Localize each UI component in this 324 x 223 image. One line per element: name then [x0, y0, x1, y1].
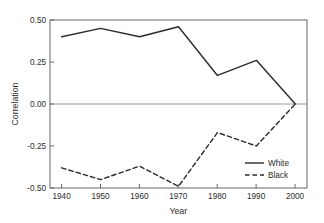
chart-legend: White Black — [240, 155, 306, 181]
y-tick-label-2: 0.00 — [30, 100, 46, 109]
x-tick-label-2000: 2000 — [286, 192, 305, 201]
y-tick-label-3: -0.25 — [27, 142, 46, 151]
x-tick-label-1940: 1940 — [52, 192, 71, 201]
correlation-line-chart: 0.50 0.25 0.00 -0.25 -0.50 1940 1950 196… — [0, 0, 324, 223]
x-tick-label-1970: 1970 — [169, 192, 188, 201]
x-axis-title: Year — [169, 206, 187, 216]
y-tick-label-4: -0.50 — [27, 184, 46, 193]
x-tick-label-1960: 1960 — [130, 192, 149, 201]
chart-background — [0, 0, 324, 223]
x-tick-label-1950: 1950 — [91, 192, 110, 201]
y-axis-title: Correlation — [10, 82, 20, 125]
legend-label-black: Black — [268, 171, 289, 180]
y-tick-label-1: 0.25 — [30, 58, 46, 67]
x-tick-label-1980: 1980 — [208, 192, 227, 201]
x-tick-label-1990: 1990 — [247, 192, 266, 201]
y-tick-label-0: 0.50 — [30, 16, 46, 25]
chart-figure: 0.50 0.25 0.00 -0.25 -0.50 1940 1950 196… — [0, 0, 324, 223]
legend-label-white: White — [268, 159, 289, 168]
